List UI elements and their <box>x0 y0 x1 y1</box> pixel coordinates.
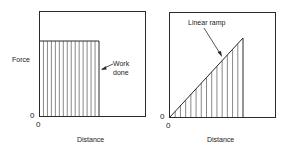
y-origin-label-right: 0 <box>160 112 165 121</box>
ramp-annotation-label: Linear ramp <box>188 19 225 27</box>
work-done-annotation: Work done <box>101 60 130 76</box>
arrow-line <box>204 28 221 55</box>
y-origin-label-left: 0 <box>30 111 35 120</box>
panel-constant-force: Force 0 0 Distance Work done <box>12 12 146 144</box>
linear-ramp-annotation: Linear ramp <box>188 19 225 57</box>
work-annotation-line2: done <box>113 69 129 76</box>
panel-linear-ramp: 0 0 Distance Linear ramp <box>160 13 276 144</box>
distance-axis-label-right: Distance <box>207 136 234 143</box>
x-origin-label-right: 0 <box>166 121 171 130</box>
arrowhead-icon <box>218 51 223 57</box>
x-origin-label-left: 0 <box>36 120 41 129</box>
work-done-hatch-area <box>43 41 95 116</box>
ramp-hatch-area <box>175 44 238 117</box>
arrowhead-icon <box>101 66 107 70</box>
distance-axis-label-left: Distance <box>77 136 104 143</box>
force-curve-constant <box>40 41 100 116</box>
work-annotation-line1: Work <box>113 60 130 67</box>
work-diagram: Force 0 0 Distance Work done 0 0 Distanc… <box>0 0 285 152</box>
force-axis-label: Force <box>12 56 30 63</box>
